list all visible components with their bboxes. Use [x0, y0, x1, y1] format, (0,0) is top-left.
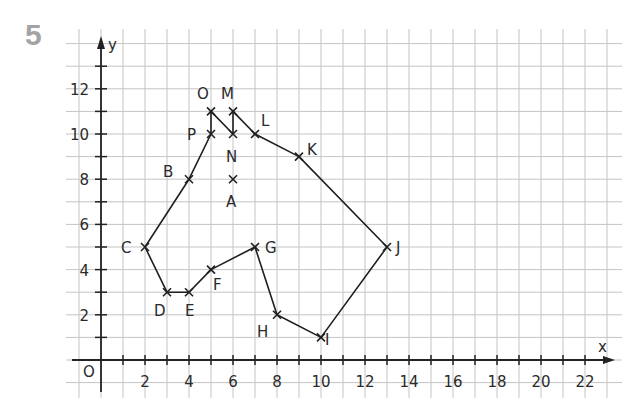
x-tick-label: 6 — [228, 373, 238, 391]
point-label: L — [261, 112, 270, 130]
point-a: A — [226, 175, 237, 211]
x-axis-label: x — [598, 338, 607, 356]
x-tick-label: 10 — [311, 373, 330, 391]
x-tick-label: 8 — [272, 373, 282, 391]
point-n: N — [226, 130, 237, 166]
x-tick-label: 2 — [140, 373, 150, 391]
point-i: I — [317, 331, 329, 349]
x-tick-label: 22 — [575, 373, 594, 391]
point-k: K — [295, 141, 318, 161]
point-label: E — [185, 302, 194, 320]
origin-label: O — [83, 363, 95, 381]
coordinate-plot: xyO 24681012141618202224681012 ABCDEFGHI… — [0, 0, 633, 407]
point-label: K — [307, 141, 318, 159]
point-label: C — [121, 239, 131, 257]
x-axis-arrow-icon — [603, 356, 615, 364]
point-label: B — [163, 163, 173, 181]
x-tick-label: 12 — [355, 373, 374, 391]
point-label: N — [226, 148, 237, 166]
x-tick-label: 20 — [531, 373, 550, 391]
point-label: G — [265, 239, 277, 257]
point-label: J — [395, 239, 400, 257]
point-label: F — [213, 276, 222, 294]
point-d: D — [154, 288, 171, 320]
point-label: O — [197, 85, 209, 103]
point-j: J — [383, 239, 400, 257]
point-label: I — [325, 331, 329, 349]
y-axis-label: y — [108, 36, 117, 54]
point-label: M — [221, 85, 234, 103]
point-label: H — [257, 323, 268, 341]
point-label: A — [226, 193, 237, 211]
y-tick-label: 6 — [79, 216, 89, 234]
x-tick-label: 14 — [399, 373, 418, 391]
point-label: D — [154, 302, 166, 320]
y-axis-arrow-icon — [97, 36, 105, 49]
y-tick-label: 10 — [70, 126, 89, 144]
y-tick-label: 4 — [79, 262, 89, 280]
y-tick-label: 12 — [70, 81, 89, 99]
point-label: P — [187, 126, 196, 144]
x-tick-label: 16 — [443, 373, 462, 391]
y-tick-label: 8 — [79, 171, 89, 189]
grid-lines — [66, 29, 622, 398]
y-tick-label: 2 — [79, 307, 89, 325]
x-tick-label: 4 — [184, 373, 194, 391]
tick-labels: 24681012141618202224681012 — [70, 81, 595, 391]
x-tick-label: 18 — [487, 373, 506, 391]
